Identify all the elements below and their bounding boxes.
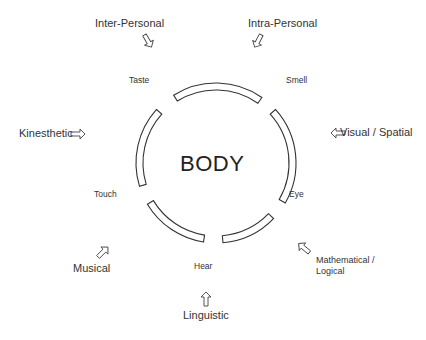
intelligence-label-musical: Musical — [73, 262, 110, 275]
ring-segment — [136, 109, 162, 186]
intelligence-label-visual-spatial: Visual / Spatial — [340, 126, 413, 139]
intelligence-label-kinesthetic: Kinesthetic — [19, 127, 73, 140]
ring-segment — [174, 83, 262, 103]
intelligence-label-inter-personal: Inter-Personal — [95, 17, 164, 30]
ring-segment — [222, 214, 273, 243]
intelligence-label-linguistic: Linguistic — [183, 309, 229, 322]
musical-arrow-icon — [95, 244, 112, 261]
ring-segment — [147, 201, 204, 242]
sense-label-eye: Eye — [289, 190, 304, 200]
intelligence-label-mathematical-line1: Mathematical / — [316, 255, 375, 265]
intra-personal-arrow-icon — [250, 32, 265, 49]
sense-label-touch: Touch — [94, 190, 117, 200]
inter-personal-arrow-icon — [140, 32, 156, 49]
linguistic-arrow-icon — [201, 292, 211, 306]
kinesthetic-arrow-icon — [71, 129, 85, 139]
intelligence-label-mathematical-line2: Logical — [316, 266, 345, 276]
sense-label-taste: Taste — [129, 76, 149, 86]
intelligence-label-intra-personal: Intra-Personal — [248, 17, 317, 30]
mathematical-logical-arrow-icon — [295, 240, 312, 257]
sense-label-hear: Hear — [194, 262, 212, 272]
center-label: BODY — [180, 151, 244, 176]
sense-label-smell: Smell — [286, 76, 307, 86]
